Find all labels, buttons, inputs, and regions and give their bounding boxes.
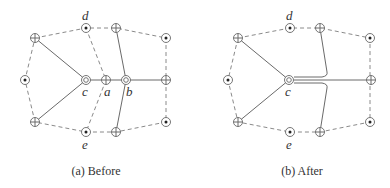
odot-icon [162, 118, 171, 127]
oplus-icon [316, 24, 325, 33]
oplus-icon [112, 128, 121, 137]
odot-icon [82, 24, 91, 33]
panel-after: d c e (b) After [224, 8, 376, 178]
oplus-icon [31, 118, 40, 127]
odot-icon [224, 76, 233, 85]
label-a: a [104, 84, 111, 99]
label-b: b [126, 84, 133, 99]
oplus-icon [234, 118, 243, 127]
label-c: c [285, 84, 291, 99]
odot-icon [366, 118, 375, 127]
label-d: d [82, 8, 89, 23]
oplus-icon [367, 76, 376, 85]
label-d: d [286, 8, 293, 23]
odot-icon [21, 76, 30, 85]
diagram-canvas: d c a b e (a) Before d c e (b) After [0, 0, 390, 188]
odot-icon [286, 24, 295, 33]
label-c: c [82, 84, 88, 99]
oplus-icon [162, 76, 171, 85]
caption-before: (a) Before [72, 164, 121, 178]
oplus-icon [112, 24, 121, 33]
odot-icon [162, 34, 171, 43]
oplus-icon [316, 128, 325, 137]
caption-after: (b) After [281, 164, 323, 178]
oplus-icon [234, 34, 243, 43]
odot-icon [366, 34, 375, 43]
panel-before: d c a b e (a) Before [21, 8, 171, 178]
solid-edges [238, 28, 371, 132]
label-e: e [82, 137, 88, 152]
label-e: e [286, 137, 292, 152]
odot-icon [286, 128, 295, 137]
solid-edges [35, 28, 166, 132]
oplus-icon [31, 34, 40, 43]
odot-icon [82, 128, 91, 137]
